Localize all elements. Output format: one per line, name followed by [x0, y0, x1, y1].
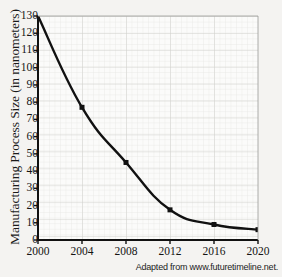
y-tick-label: 10	[14, 217, 38, 229]
y-tick-label: 120	[14, 27, 38, 39]
y-tick-label: 40	[14, 165, 38, 177]
chart-figure: Manufacturing Process Size (in nanometer…	[0, 0, 282, 277]
y-tick-label: 110	[14, 45, 38, 57]
line-chart-svg	[38, 16, 258, 240]
x-tick-label: 2008	[106, 246, 146, 258]
y-tick-label: 30	[14, 183, 38, 195]
y-axis-tick-labels: 0102030405060708090100110120130	[14, 0, 38, 277]
y-tick-label: 60	[14, 131, 38, 143]
y-tick-label: 130	[14, 10, 38, 22]
data-point-marker	[124, 160, 129, 165]
data-point-marker	[80, 105, 85, 110]
major-gridlines	[38, 16, 258, 240]
x-tick-label: 2020	[238, 246, 278, 258]
y-tick-label: 70	[14, 114, 38, 126]
y-tick-label: 80	[14, 96, 38, 108]
data-point-marker	[168, 207, 173, 212]
y-tick-label: 20	[14, 200, 38, 212]
source-attribution: Adapted from www.futuretimeline.net.	[136, 262, 278, 272]
x-tick-label: 2012	[150, 246, 190, 258]
x-tick-label: 2016	[194, 246, 234, 258]
y-tick-label: 90	[14, 79, 38, 91]
x-axis-tick-labels: 200020042008201220162020	[0, 246, 282, 262]
x-tick-label: 2004	[62, 246, 102, 258]
plot-area	[38, 16, 258, 240]
data-point-marker	[212, 222, 217, 227]
y-tick-label: 100	[14, 62, 38, 74]
data-point-marker	[256, 227, 259, 232]
x-tick-label: 2000	[18, 246, 58, 258]
y-tick-label: 50	[14, 148, 38, 160]
